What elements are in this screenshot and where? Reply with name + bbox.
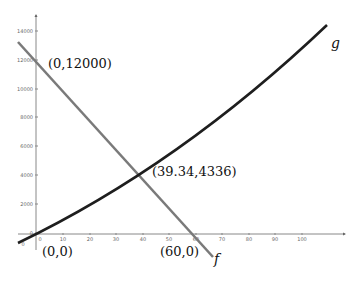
svg-text:90: 90 — [272, 236, 278, 242]
annotation-x-intercept: (60,0) — [160, 244, 199, 259]
annotation-y-intercept: (0,12000) — [48, 56, 112, 71]
x-axis-arrow-icon — [343, 233, 346, 236]
y-axis-arrow-icon — [35, 14, 38, 17]
curve-label-f: f — [213, 251, 222, 267]
svg-text:4000: 4000 — [20, 172, 33, 178]
svg-text:100: 100 — [297, 236, 307, 242]
svg-text:70: 70 — [219, 236, 225, 242]
svg-text:80: 80 — [246, 236, 252, 242]
svg-text:6000: 6000 — [20, 143, 33, 149]
svg-text:10: 10 — [60, 236, 66, 242]
svg-text:2000: 2000 — [20, 201, 33, 207]
svg-text:8000: 8000 — [20, 114, 33, 120]
svg-text:14000: 14000 — [17, 28, 33, 34]
annotation-intersection: (39.34,4336) — [152, 164, 237, 179]
svg-text:10000: 10000 — [17, 86, 33, 92]
chart-canvas: 0 2000 4000 6000 8000 10000 12000 14000 … — [0, 0, 356, 281]
curve-label-g: g — [331, 35, 340, 51]
annotation-origin: (0,0) — [42, 244, 73, 259]
svg-text:50: 50 — [166, 236, 172, 242]
svg-text:40: 40 — [140, 236, 146, 242]
svg-text:12000: 12000 — [17, 57, 33, 63]
svg-text:20: 20 — [87, 236, 93, 242]
svg-text:30: 30 — [113, 236, 119, 242]
series-f-line — [18, 42, 213, 257]
svg-text:0: 0 — [38, 236, 41, 242]
